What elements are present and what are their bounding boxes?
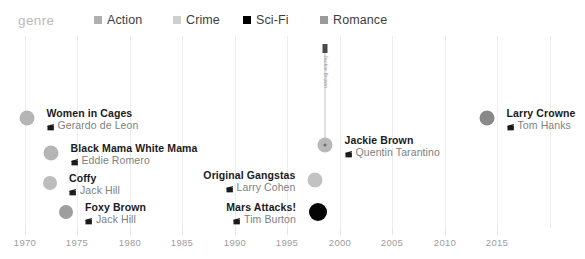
legend-title: genre (18, 13, 55, 28)
data-point-annotation: Foxy BrownJack Hill (85, 201, 146, 225)
annotation-director: Tim Burton (226, 213, 296, 225)
annotation-director: Quentin Tarantino (345, 146, 440, 158)
gridline (497, 36, 498, 228)
axis-tick-label: 2015 (486, 237, 508, 248)
annotation-film-title: Foxy Brown (85, 201, 146, 213)
data-point-annotation: Women in CagesGerardo de Leon (47, 107, 139, 131)
data-point-mark[interactable] (308, 173, 323, 188)
data-point-annotation: Larry CrowneTom Hanks (507, 107, 576, 131)
film-clapper-icon (85, 215, 93, 223)
gridline (25, 36, 26, 228)
gridline (182, 36, 183, 228)
film-clapper-icon (226, 183, 234, 191)
film-clapper-icon (345, 148, 353, 156)
x-axis: 1970197519801985199019952000200520102015 (0, 228, 585, 259)
gridline (287, 36, 288, 228)
annotation-director-name: Tom Hanks (518, 119, 571, 131)
annotation-director: Gerardo de Leon (47, 119, 139, 131)
legend-item-label: Crime (186, 13, 220, 27)
legend-item-label: Action (107, 13, 142, 27)
data-point-annotation: Black Mama White MamaEddie Romero (71, 142, 198, 166)
axis-tick (445, 228, 446, 235)
annotation-film-title: Mars Attacks! (226, 201, 296, 213)
timeline-scatter-chart: genre ActionCrimeSci-FiRomance Jackie Br… (0, 0, 585, 259)
annotation-film-title: Coffy (69, 172, 120, 184)
annotation-director: Eddie Romero (71, 154, 198, 166)
annotation-director: Larry Cohen (203, 181, 295, 193)
annotation-director-name: Jack Hill (96, 213, 136, 225)
annotation-stem-label: Jackie Brown (323, 55, 329, 88)
data-point-annotation: CoffyJack Hill (69, 172, 120, 196)
annotation-director: Jack Hill (69, 184, 120, 196)
axis-tick-label: 2010 (434, 237, 456, 248)
annotation-director-name: Eddie Romero (82, 154, 150, 166)
data-point-mark[interactable] (59, 205, 73, 219)
legend-item-romance[interactable]: Romance (320, 13, 387, 27)
legend-swatch-icon (320, 16, 328, 24)
legend-swatch-icon (94, 16, 102, 24)
legend-item-label: Sci-Fi (256, 13, 289, 27)
annotation-director-name: Tim Burton (244, 213, 296, 225)
film-clapper-icon (233, 215, 241, 223)
gridline (77, 36, 78, 228)
annotation-stem-cap (323, 44, 328, 53)
gridline (130, 36, 131, 228)
axis-tick-label: 1985 (171, 237, 193, 248)
film-clapper-icon (71, 156, 79, 164)
annotation-director: Tom Hanks (507, 119, 576, 131)
film-clapper-icon (507, 121, 515, 129)
axis-tick (77, 228, 78, 235)
axis-tick (25, 228, 26, 235)
axis-tick (287, 228, 288, 235)
plot-area: Jackie Brown Women in CagesGerardo de Le… (0, 36, 585, 228)
axis-tick-label: 2000 (329, 237, 351, 248)
axis-tick-label: 1975 (66, 237, 88, 248)
axis-tick (340, 228, 341, 235)
gridline (235, 36, 236, 228)
axis-tick-label: 1995 (276, 237, 298, 248)
legend-item-label: Romance (333, 13, 387, 27)
axis-tick-label: 1970 (14, 237, 36, 248)
annotation-film-title: Larry Crowne (507, 107, 576, 119)
axis-tick-label: 2005 (381, 237, 403, 248)
data-point-mark[interactable] (43, 176, 57, 190)
film-clapper-icon (69, 186, 77, 194)
gridline (392, 36, 393, 228)
annotation-director-name: Gerardo de Leon (58, 119, 139, 131)
data-point-mark[interactable] (20, 111, 35, 126)
axis-tick (392, 228, 393, 235)
axis-tick-label: 1980 (119, 237, 141, 248)
legend-swatch-icon (173, 16, 181, 24)
axis-tick (497, 228, 498, 235)
annotation-director-name: Jack Hill (80, 184, 120, 196)
gridline (550, 36, 551, 228)
annotation-film-title: Original Gangstas (203, 169, 295, 181)
data-point-annotation: Mars Attacks!Tim Burton (226, 201, 296, 225)
legend-item-crime[interactable]: Crime (173, 13, 220, 27)
data-point-annotation: Jackie BrownQuentin Tarantino (345, 134, 440, 158)
axis-tick-label: 1990 (224, 237, 246, 248)
data-point-annotation: Original GangstasLarry Cohen (203, 169, 295, 193)
annotation-director: Jack Hill (85, 213, 146, 225)
legend: genre ActionCrimeSci-FiRomance (0, 0, 585, 36)
axis-tick (182, 228, 183, 235)
data-point-mark[interactable] (480, 111, 495, 126)
axis-tick (130, 228, 131, 235)
gridline (340, 36, 341, 228)
legend-item-action[interactable]: Action (94, 13, 142, 27)
data-point-mark[interactable] (309, 203, 327, 221)
data-point-mark[interactable] (44, 146, 59, 161)
legend-swatch-icon (243, 16, 251, 24)
annotation-film-title: Jackie Brown (345, 134, 440, 146)
film-clapper-icon (47, 121, 55, 129)
annotation-director-name: Quentin Tarantino (356, 146, 440, 158)
annotation-director-name: Larry Cohen (237, 181, 296, 193)
annotation-film-title: Women in Cages (47, 107, 139, 119)
axis-tick (235, 228, 236, 235)
data-point-center-dot (324, 144, 327, 147)
legend-item-sci-fi[interactable]: Sci-Fi (243, 13, 289, 27)
annotation-film-title: Black Mama White Mama (71, 142, 198, 154)
gridline (445, 36, 446, 228)
